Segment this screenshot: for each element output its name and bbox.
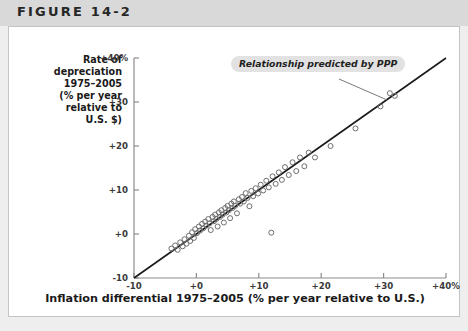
data-point [269, 230, 274, 235]
data-point [283, 165, 288, 170]
data-point [228, 216, 233, 221]
data-point [215, 224, 220, 229]
data-point [286, 173, 291, 178]
y-tick-label: +40% [76, 53, 128, 63]
data-point [221, 220, 226, 225]
figure-card: Rate ofdepreciation1975–2005(% per yearr… [8, 26, 460, 317]
data-point [253, 186, 258, 191]
data-point [247, 204, 252, 209]
x-tick-label: +30 [358, 281, 410, 291]
figure-header-band: FIGURE 14-2 [0, 0, 468, 26]
data-point [243, 191, 248, 196]
x-tick-label: +20 [295, 281, 347, 291]
data-point [279, 177, 284, 182]
figure-page: FIGURE 14-2 Rate ofdepreciation1975–2005… [0, 0, 468, 331]
y-axis-title: Rate ofdepreciation1975–2005(% per yearr… [19, 54, 122, 127]
x-tick-label: +40% [420, 281, 468, 291]
data-point [256, 191, 261, 196]
y-tick-label: +10 [76, 185, 128, 195]
data-point [270, 174, 275, 179]
annotation-leader-line [339, 79, 387, 100]
data-point [328, 144, 333, 149]
x-tick-label: +0 [170, 281, 222, 291]
y-tick-label: +30 [76, 97, 128, 107]
data-point [273, 181, 278, 186]
data-point [266, 185, 271, 190]
data-point [234, 211, 239, 216]
data-point [290, 160, 295, 165]
data-point [294, 169, 299, 174]
x-axis-title: Inflation differential 1975–2005 (% per … [9, 292, 461, 305]
y-axis-title-line: U.S. $) [19, 114, 122, 126]
data-point [264, 178, 269, 183]
data-point [312, 155, 317, 160]
data-point [276, 170, 281, 175]
data-point [261, 188, 266, 193]
data-point [302, 164, 307, 169]
data-point [353, 126, 358, 131]
data-point [208, 228, 213, 233]
y-axis-title-line: 1975–2005 [19, 78, 122, 90]
data-point [190, 230, 195, 235]
data-point [258, 182, 263, 187]
data-points-group [169, 91, 397, 253]
ppp-relationship-annotation: Relationship predicted by PPP [231, 56, 405, 72]
x-tick-label: -10 [108, 281, 160, 291]
x-tick-label: +10 [233, 281, 285, 291]
data-point [387, 91, 392, 96]
y-axis-title-line: depreciation [19, 66, 122, 78]
data-point [297, 155, 302, 160]
y-tick-label: +0 [76, 229, 128, 239]
figure-number-label: FIGURE 14-2 [17, 4, 132, 19]
y-tick-label: +20 [76, 141, 128, 151]
